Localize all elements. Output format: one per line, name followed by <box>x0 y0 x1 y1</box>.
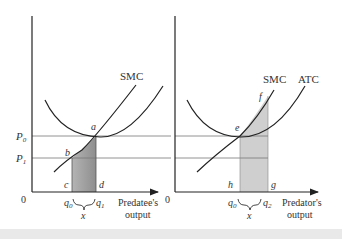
right-panel: SMC ATC e f h g 0 q0 q2 x Predator's out… <box>165 16 322 221</box>
q0-label: q0 <box>228 197 237 210</box>
origin-label: 0 <box>165 194 170 205</box>
q0-label: q0 <box>64 197 73 210</box>
smc-label: SMC <box>263 73 286 85</box>
price-label-p1: P1 <box>15 152 26 166</box>
brace-x <box>238 199 261 210</box>
x-axis-title-line1: Predator's <box>282 197 322 208</box>
q2-label: q2 <box>263 197 272 210</box>
bottom-divider-band <box>0 229 342 239</box>
atc-curve <box>45 86 163 137</box>
brace-x <box>73 199 95 210</box>
predation-cost-diagram: SMC P0 P1 a b c d 0 q0 q1 x Predatee's o… <box>0 0 342 239</box>
shaded-area-efgh <box>240 96 268 192</box>
brace-label-x: x <box>80 210 86 221</box>
atc-label: ATC <box>298 73 319 85</box>
left-panel: SMC P0 P1 a b c d 0 q0 q1 x Predatee's o… <box>15 16 171 221</box>
point-label-h: h <box>228 179 233 190</box>
point-label-e: e <box>235 122 240 133</box>
x-axis-title-line2: output <box>125 209 151 220</box>
point-label-d: d <box>99 179 105 190</box>
brace-label-x: x <box>246 210 252 221</box>
point-label-g: g <box>271 179 276 190</box>
x-axis-title-line2: output <box>287 209 313 220</box>
smc-label: SMC <box>120 70 143 82</box>
x-axis-title-line1: Predatee's <box>118 197 158 208</box>
point-label-a: a <box>91 121 96 132</box>
point-label-c: c <box>64 179 69 190</box>
shaded-area-abcd <box>72 136 96 192</box>
origin-label: 0 <box>21 194 26 205</box>
point-label-b: b <box>65 147 70 158</box>
price-label-p0: P0 <box>15 130 27 144</box>
point-label-f: f <box>259 91 263 102</box>
q1-label: q1 <box>96 197 105 210</box>
